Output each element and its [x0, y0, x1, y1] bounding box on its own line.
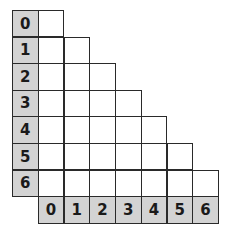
grid-cell	[115, 170, 142, 197]
row-label: 3	[12, 90, 39, 117]
column-label: 1	[64, 196, 91, 223]
grid-cell	[115, 90, 142, 117]
grid-cell	[141, 116, 168, 143]
grid-cell	[167, 170, 194, 197]
grid-cell	[115, 116, 142, 143]
grid-cell	[64, 143, 91, 170]
grid-cell	[64, 90, 91, 117]
grid-cell	[38, 116, 65, 143]
grid-cell	[38, 37, 65, 64]
grid-cell	[89, 116, 116, 143]
grid-cell	[89, 143, 116, 170]
grid-cell	[192, 170, 219, 197]
grid-cell	[167, 143, 194, 170]
row-label: 4	[12, 116, 39, 143]
row-label: 6	[12, 170, 39, 197]
column-label: 4	[141, 196, 168, 223]
grid-cell	[115, 143, 142, 170]
column-label: 3	[115, 196, 142, 223]
grid-cell	[89, 170, 116, 197]
grid-cell	[64, 37, 91, 64]
column-label: 2	[89, 196, 116, 223]
grid-cell	[38, 170, 65, 197]
grid-cell	[89, 63, 116, 90]
row-label: 1	[12, 37, 39, 64]
grid-cell	[38, 63, 65, 90]
grid-cell	[38, 10, 65, 37]
grid-cell	[89, 90, 116, 117]
grid-cell	[64, 116, 91, 143]
grid-cell	[64, 63, 91, 90]
row-label: 2	[12, 63, 39, 90]
grid-cell	[141, 143, 168, 170]
column-label: 6	[192, 196, 219, 223]
column-label: 5	[167, 196, 194, 223]
row-label: 0	[12, 10, 39, 37]
row-label: 5	[12, 143, 39, 170]
grid-cell	[141, 170, 168, 197]
column-label: 0	[38, 196, 65, 223]
grid-cell	[64, 170, 91, 197]
grid-cell	[38, 90, 65, 117]
grid-cell	[38, 143, 65, 170]
